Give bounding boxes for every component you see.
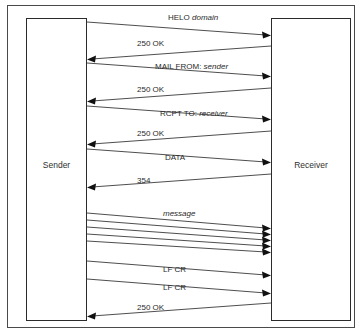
message-label-250-ok-3: 250 OK <box>137 129 165 138</box>
sequence-diagram-canvas: Sender Receiver HELO domain 250 OK MAIL … <box>0 0 362 333</box>
arrowhead-left-icon <box>87 141 96 148</box>
arrowhead-right-icon <box>262 237 271 244</box>
arrowhead-right-icon <box>262 116 271 123</box>
message-label-250-ok-2: 250 OK <box>137 85 165 94</box>
arrowhead-right-icon <box>262 272 271 279</box>
arrowhead-right-icon <box>262 231 271 238</box>
arrowhead-right-icon <box>262 159 271 166</box>
message-lf-cr-1: LF CR <box>87 261 271 279</box>
message-label-helo: HELO domain <box>168 13 219 22</box>
message-label-mail-from: MAIL FROM: sender <box>155 62 228 71</box>
message-250-ok-3: 250 OK <box>87 129 271 148</box>
mail-from-command: MAIL FROM: <box>155 62 201 71</box>
arrowhead-left-icon <box>87 184 96 191</box>
helo-argument: domain <box>192 13 219 22</box>
message-label-lf-cr-1: LF CR <box>163 265 186 274</box>
helo-command: HELO <box>168 13 190 22</box>
arrowhead-left-icon <box>87 98 96 105</box>
message-250-ok-4: 250 OK <box>87 303 271 320</box>
arrowhead-right-icon <box>262 73 271 80</box>
receiver-actor-label: Receiver <box>294 160 328 170</box>
message-label-250-ok-1: 250 OK <box>137 39 165 48</box>
message-helo: HELO domain <box>87 13 271 39</box>
message-lf-cr-2: LF CR <box>87 279 271 297</box>
message-body-block: message <box>87 209 271 256</box>
message-label-data: DATA <box>165 153 186 162</box>
arrowhead-right-icon <box>262 290 271 297</box>
message-mail-from: MAIL FROM: sender <box>87 62 271 80</box>
message-label-354: 354 <box>137 176 151 185</box>
message-354: 354 <box>87 174 271 191</box>
message-label-lf-cr-2: LF CR <box>163 283 186 292</box>
sender-actor-label: Sender <box>43 160 71 170</box>
arrowhead-right-icon <box>262 225 271 232</box>
arrowhead-right-icon <box>262 243 271 250</box>
rcpt-to-command: RCPT TO: <box>160 109 197 118</box>
message-label-rcpt-to: RCPT TO: receiver <box>160 109 228 118</box>
arrowhead-right-icon <box>262 32 271 39</box>
rcpt-to-argument: receiver <box>199 109 228 118</box>
arrowhead-right-icon <box>262 249 271 256</box>
message-label-250-ok-4: 250 OK <box>137 303 165 312</box>
message-250-ok-1: 250 OK <box>87 39 271 63</box>
smtp-sequence-diagram: Sender Receiver HELO domain 250 OK MAIL … <box>0 0 362 333</box>
message-250-ok-2: 250 OK <box>87 85 271 105</box>
message-label-message-body: message <box>163 209 196 218</box>
message-data: DATA <box>87 149 271 166</box>
message-rcpt-to: RCPT TO: receiver <box>87 106 271 123</box>
mail-from-argument: sender <box>204 62 229 71</box>
arrowhead-left-icon <box>87 313 96 320</box>
arrowhead-left-icon <box>87 56 96 63</box>
